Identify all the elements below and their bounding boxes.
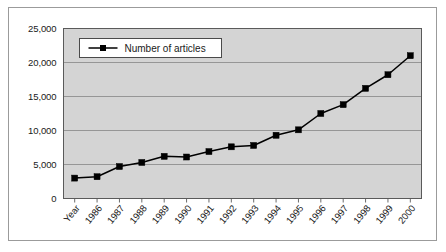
line-chart: 05,00010,00015,00020,00025,000Year198619…: [0, 0, 446, 252]
data-point-marker: [228, 144, 234, 150]
data-point-marker: [340, 102, 346, 108]
y-tick-label: 15,000: [28, 91, 56, 102]
x-tick-label: 1999: [373, 203, 395, 226]
y-tick-label: 20,000: [28, 57, 56, 68]
data-point-marker: [295, 127, 301, 133]
data-point-marker: [318, 111, 324, 117]
x-tick-label: 1988: [127, 203, 149, 226]
x-tick-label: 1989: [149, 203, 171, 226]
x-tick-label: 1992: [217, 203, 239, 226]
data-point-marker: [94, 174, 100, 180]
data-point-marker: [206, 149, 212, 155]
y-tick-label: 25,000: [28, 23, 56, 34]
legend-label: Number of articles: [125, 43, 206, 54]
y-tick-label: 0: [51, 193, 56, 204]
y-axis-labels: 05,00010,00015,00020,00025,000: [28, 23, 56, 204]
x-tick-label: 1986: [82, 203, 104, 226]
x-tick-label: 1991: [194, 203, 216, 226]
legend-marker-sample: [100, 45, 106, 51]
x-tick-label: 1995: [284, 203, 306, 226]
figure-container: 05,00010,00015,00020,00025,000Year198619…: [0, 0, 446, 252]
data-point-marker: [139, 159, 145, 165]
x-tick-label: 1993: [239, 203, 261, 226]
x-tick-label: 2000: [396, 203, 418, 226]
data-point-marker: [273, 132, 279, 138]
x-tick-label: 1994: [261, 203, 283, 226]
chart-area: 05,00010,00015,00020,00025,000Year198619…: [0, 0, 446, 252]
data-point-marker: [407, 53, 413, 59]
data-point-marker: [72, 175, 78, 181]
data-point-marker: [116, 164, 122, 170]
data-point-marker: [385, 72, 391, 78]
x-tick-label: 1996: [306, 203, 328, 226]
data-point-marker: [363, 85, 369, 91]
x-tick-label: 1997: [328, 203, 350, 226]
x-axis-labels: Year198619871988198919901991199219931994…: [61, 199, 417, 226]
data-point-marker: [161, 153, 167, 159]
x-tick-label: 1998: [351, 203, 373, 226]
data-point-marker: [184, 154, 190, 160]
x-tick-label: Year: [61, 203, 82, 224]
y-tick-label: 5,000: [33, 159, 56, 170]
x-tick-label: 1990: [172, 203, 194, 226]
legend: Number of articles: [80, 39, 222, 58]
x-tick-label: 1987: [105, 203, 127, 226]
data-point-marker: [251, 142, 257, 148]
y-tick-label: 10,000: [28, 125, 56, 136]
